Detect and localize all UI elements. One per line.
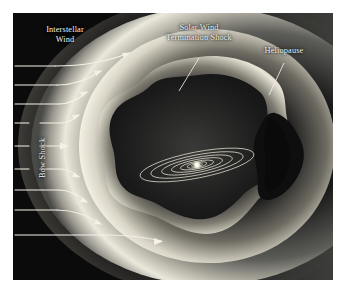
termination-shock-line2: Termination Shock	[134, 33, 264, 43]
sun	[193, 161, 202, 170]
heliosphere-diagram: Interstellar Wind Solar Wind Termination…	[13, 13, 333, 280]
label-bow-shock: Bow Shock	[38, 138, 47, 178]
label-interstellar-wind: Interstellar Wind	[27, 25, 103, 44]
interstellar-wind-line2: Wind	[27, 35, 103, 45]
label-solar-wind-termination-shock: Solar Wind Termination Shock	[134, 23, 264, 42]
heliopause-text: Heliopause	[246, 46, 322, 56]
interstellar-wind-line1: Interstellar	[27, 25, 103, 35]
solar-wind-line1: Solar Wind	[134, 23, 264, 33]
label-heliopause: Heliopause	[246, 46, 322, 56]
